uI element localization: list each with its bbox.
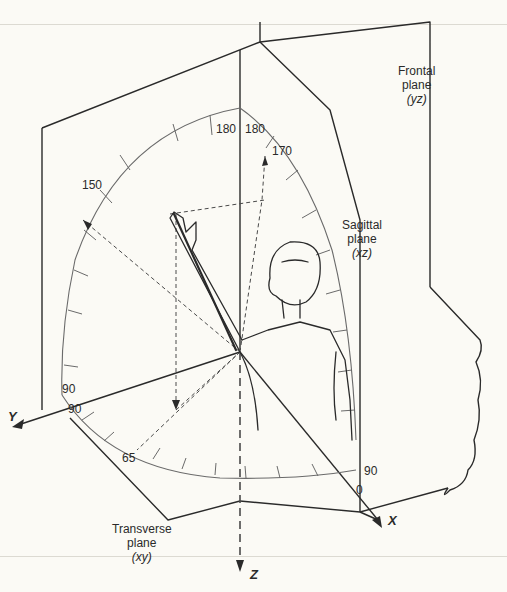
transverse-arc <box>62 395 356 478</box>
transverse-plane-label: Transverse plane (xy) <box>112 522 172 564</box>
diagram-canvas: Frontal plane (yz) Sagittal plane (xz) T… <box>0 0 507 592</box>
transverse-plane-name: Transverse <box>112 522 172 536</box>
dash-170-line <box>240 156 265 352</box>
angle-label-180-frontal: 180 <box>216 122 236 136</box>
frontal-plane-label: Frontal plane (yz) <box>398 64 435 106</box>
dash-150-line <box>83 220 240 352</box>
z-axis-arrow-icon <box>236 560 244 572</box>
z-axis-label: Z <box>250 568 258 582</box>
angle-label-90-transverse: 90 <box>68 402 81 416</box>
angle-label-170: 170 <box>272 144 292 158</box>
transverse-plane-axes: (xy) <box>112 550 172 564</box>
head <box>269 242 320 305</box>
sagittal-plane-axes: (xz) <box>342 246 382 260</box>
angle-label-180-sagittal: 180 <box>245 122 265 136</box>
frontal-plane-name: Frontal <box>398 64 435 78</box>
angle-label-0: 0 <box>356 483 363 497</box>
frontal-arc <box>62 108 240 395</box>
angle-label-90-frontal: 90 <box>62 382 75 396</box>
sagittal-plane-word: plane <box>342 232 382 246</box>
angle-label-65: 65 <box>122 451 135 465</box>
transverse-plane-word: plane <box>112 536 172 550</box>
angle-label-90-right: 90 <box>364 464 377 478</box>
frontal-plane-word: plane <box>398 78 435 92</box>
x-axis-label: X <box>388 514 397 528</box>
frontal-plane-axes: (yz) <box>398 92 435 106</box>
y-axis-label: Y <box>8 410 17 424</box>
sagittal-plane-name: Sagittal <box>342 218 382 232</box>
sagittal-plane-label: Sagittal plane (xz) <box>342 218 382 260</box>
sagittal-arc <box>240 108 356 440</box>
angle-label-150: 150 <box>82 178 102 192</box>
frontal-plane-outline <box>42 22 260 128</box>
dash-65-line <box>137 352 240 450</box>
body-block-outline <box>430 287 481 495</box>
y-axis-line <box>18 352 240 425</box>
